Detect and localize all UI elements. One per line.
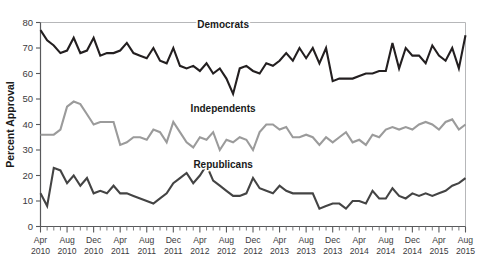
x-tick-label-year: 2012 bbox=[243, 246, 262, 256]
x-tick-label-year: 2015 bbox=[456, 246, 475, 256]
y-axis-ticks: 01020304050607080 bbox=[22, 17, 40, 232]
x-tick-label-year: 2010 bbox=[31, 246, 50, 256]
x-tick-label-year: 2011 bbox=[164, 246, 183, 256]
x-tick-label-month: Aug bbox=[219, 235, 235, 245]
x-tick-label-month: Dec bbox=[166, 235, 182, 245]
series-line-republicans bbox=[41, 165, 466, 208]
x-tick-label-month: Apr bbox=[432, 235, 446, 245]
x-tick-label-year: 2011 bbox=[111, 246, 130, 256]
x-tick-label-year: 2014 bbox=[376, 246, 395, 256]
y-tick-label: 40 bbox=[22, 119, 33, 130]
x-tick-label-month: Apr bbox=[34, 235, 48, 245]
y-tick-label: 70 bbox=[22, 42, 33, 53]
x-tick-label-year: 2012 bbox=[190, 246, 209, 256]
y-tick-label: 0 bbox=[28, 221, 33, 232]
x-tick-label-year: 2013 bbox=[297, 246, 316, 256]
y-tick-label: 30 bbox=[22, 144, 33, 155]
x-axis-labels: Apr2010Aug2010Dec2010Apr2011Aug2011Dec20… bbox=[31, 235, 475, 256]
x-tick-label-month: Apr bbox=[353, 235, 367, 245]
y-axis-title: Percent Approval bbox=[4, 81, 16, 168]
x-axis-ticks bbox=[41, 227, 466, 233]
x-tick-label-month: Dec bbox=[405, 235, 421, 245]
series-line-democrats bbox=[41, 30, 466, 94]
x-tick-label-month: Apr bbox=[114, 235, 128, 245]
x-tick-label-year: 2011 bbox=[138, 246, 157, 256]
y-tick-label: 20 bbox=[22, 170, 33, 181]
x-tick-label-year: 2014 bbox=[350, 246, 369, 256]
x-tick-label-month: Dec bbox=[86, 235, 102, 245]
x-tick-label-month: Apr bbox=[273, 235, 287, 245]
x-tick-label-month: Aug bbox=[298, 235, 314, 245]
x-tick-label-year: 2014 bbox=[403, 246, 422, 256]
x-tick-label-month: Dec bbox=[245, 235, 261, 245]
x-tick-label-year: 2010 bbox=[58, 246, 77, 256]
x-tick-label-month: Apr bbox=[193, 235, 207, 245]
y-tick-label: 50 bbox=[22, 93, 33, 104]
series-label-democrats: Democrats bbox=[197, 19, 249, 30]
x-tick-label-month: Aug bbox=[59, 235, 75, 245]
x-tick-label-month: Aug bbox=[139, 235, 155, 245]
chart-canvas: 01020304050607080Percent ApprovalApr2010… bbox=[0, 0, 477, 272]
x-tick-label-month: Dec bbox=[325, 235, 341, 245]
y-tick-label: 60 bbox=[22, 68, 33, 79]
y-tick-label: 80 bbox=[22, 17, 33, 28]
x-tick-label-year: 2015 bbox=[429, 246, 448, 256]
series-label-independents: Independents bbox=[191, 103, 256, 114]
y-tick-label: 10 bbox=[22, 195, 33, 206]
x-tick-label-year: 2013 bbox=[270, 246, 289, 256]
x-tick-label-year: 2012 bbox=[217, 246, 236, 256]
x-tick-label-month: Aug bbox=[378, 235, 394, 245]
x-tick-label-year: 2010 bbox=[84, 246, 103, 256]
series-label-republicans: Republicans bbox=[193, 159, 253, 170]
x-tick-label-year: 2013 bbox=[323, 246, 342, 256]
x-tick-label-month: Aug bbox=[458, 235, 474, 245]
approval-chart: 01020304050607080Percent ApprovalApr2010… bbox=[0, 0, 477, 272]
